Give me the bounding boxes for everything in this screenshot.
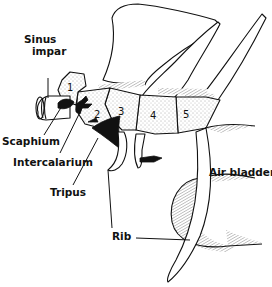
- vertebra-number-2: 2: [94, 109, 100, 120]
- label-air-bladder: Air bladder: [209, 166, 272, 178]
- ribs: [108, 128, 211, 282]
- vertebra-number-5: 5: [183, 109, 189, 120]
- vertebra-4: [136, 95, 178, 134]
- label-scaphium: Scaphium: [2, 135, 60, 147]
- weberian-apparatus-diagram: 1 2 3 4 5 Sinus impar Scaphium Intercala…: [0, 0, 272, 287]
- vertebra-number-1: 1: [67, 82, 73, 93]
- vertebra-number-3: 3: [118, 106, 124, 117]
- label-sinus-impar-line2: impar: [32, 45, 67, 57]
- label-intercalarium: Intercalarium: [13, 156, 93, 168]
- label-rib: Rib: [112, 230, 132, 242]
- label-tripus: Tripus: [50, 186, 86, 198]
- label-sinus-impar-line1: Sinus: [24, 33, 56, 45]
- scaphium: [58, 99, 74, 109]
- vertebra-number-4: 4: [150, 110, 156, 121]
